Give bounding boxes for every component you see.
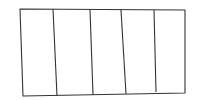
column-dividers bbox=[53, 9, 156, 96]
outer-rectangle bbox=[20, 9, 185, 96]
column-divider-2 bbox=[90, 9, 93, 95]
column-divider-4 bbox=[154, 10, 156, 92]
column-divider-1 bbox=[53, 9, 57, 96]
sketch-canvas bbox=[0, 0, 200, 100]
column-divider-3 bbox=[121, 10, 126, 94]
